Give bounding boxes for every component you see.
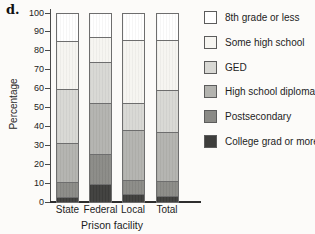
- legend-swatch: [204, 11, 217, 24]
- bar-segment-college-grad-or-more: [157, 196, 178, 202]
- legend-swatch: [204, 36, 217, 49]
- bar-total: [156, 13, 179, 203]
- y-tick-label: 10: [20, 178, 44, 189]
- x-axis-title: Prison facility: [42, 219, 182, 231]
- y-tick-label: 70: [20, 64, 44, 75]
- panel-label: d.: [6, 2, 20, 17]
- legend-item: Postsecondary: [204, 110, 291, 123]
- y-tick-label: 40: [20, 121, 44, 132]
- bar-segment-postsecondary: [57, 182, 78, 197]
- legend-item: College grad or more: [204, 135, 315, 148]
- y-axis-title: Percentage: [8, 78, 19, 129]
- legend-label: Postsecondary: [225, 111, 291, 122]
- bar-segment-8th-grade-or-less: [90, 14, 111, 37]
- legend-item: 8th grade or less: [204, 11, 300, 24]
- y-axis-line: [50, 9, 51, 203]
- legend-label: 8th grade or less: [225, 12, 300, 23]
- y-tick-label: 60: [20, 83, 44, 94]
- bar-segment-college-grad-or-more: [123, 194, 144, 202]
- bar-segment-high-school-diploma: [123, 130, 144, 181]
- bar-segment-high-school-diploma: [90, 103, 111, 154]
- bar-federal: [89, 13, 112, 203]
- bar-segment-college-grad-or-more: [90, 184, 111, 202]
- bar-segment-ged: [157, 90, 178, 132]
- bar-state: [56, 13, 79, 203]
- y-tick-label: 20: [20, 159, 44, 170]
- bar-segment-high-school-diploma: [157, 132, 178, 181]
- y-tick-label: 100: [20, 8, 44, 19]
- legend-label: College grad or more: [225, 136, 315, 147]
- y-tick-label: 50: [20, 102, 44, 113]
- legend-swatch: [204, 61, 217, 74]
- y-tick-label: 90: [20, 26, 44, 37]
- bar-local: [122, 13, 145, 203]
- bar-segment-some-high-school: [90, 37, 111, 62]
- legend-label: High school diploma: [225, 86, 315, 97]
- bar-segment-ged: [123, 103, 144, 129]
- bar-segment-some-high-school: [57, 41, 78, 89]
- bar-segment-some-high-school: [123, 40, 144, 103]
- bar-segment-8th-grade-or-less: [123, 14, 144, 40]
- bar-segment-some-high-school: [157, 40, 178, 90]
- bar-segment-ged: [57, 89, 78, 143]
- legend-label: GED: [225, 62, 247, 73]
- legend-swatch: [204, 135, 217, 148]
- x-tick-label: Total: [137, 204, 197, 215]
- legend-item: Some high school: [204, 36, 305, 49]
- bar-segment-8th-grade-or-less: [157, 14, 178, 40]
- bar-segment-postsecondary: [90, 154, 111, 184]
- bar-segment-ged: [90, 62, 111, 103]
- bar-segment-postsecondary: [123, 180, 144, 194]
- legend-item: GED: [204, 61, 247, 74]
- bar-segment-college-grad-or-more: [57, 197, 78, 202]
- bar-segment-postsecondary: [157, 181, 178, 196]
- figure-inmate-education-by-prison-facility: d. Percentage 0102030405060708090100 Sta…: [0, 0, 315, 234]
- bar-segment-8th-grade-or-less: [57, 14, 78, 41]
- legend-item: High school diploma: [204, 85, 315, 98]
- y-tick-label: 80: [20, 45, 44, 56]
- bar-segment-high-school-diploma: [57, 143, 78, 182]
- y-tick-label: 30: [20, 140, 44, 151]
- legend-swatch: [204, 85, 217, 98]
- legend-swatch: [204, 110, 217, 123]
- legend-label: Some high school: [225, 37, 305, 48]
